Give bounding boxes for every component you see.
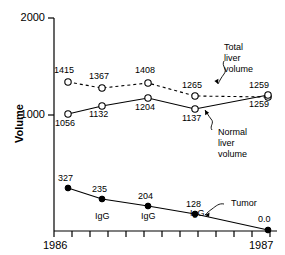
data-label-total-0: 1415 <box>54 66 74 75</box>
treatment-label-igg-1: IgG <box>95 212 110 221</box>
treatment-label-igg-3: IgG <box>190 209 205 218</box>
y-tick-label-1000: 1000 <box>14 109 45 120</box>
leader-normal-liver-volume <box>205 110 212 130</box>
annotation-normal-liver-volume-line3: volume <box>218 150 247 159</box>
annotation-total-liver-volume-line1: Total <box>224 43 243 52</box>
data-label-total-1: 1367 <box>89 72 109 81</box>
x-tick-label-1986: 1986 <box>43 240 67 251</box>
annotation-tumor: Tumor <box>231 199 257 208</box>
annotation-total-liver-volume-line2: liver <box>224 54 241 63</box>
data-label-tumor-0: 327 <box>58 174 73 183</box>
treatment-label-igg-2: IgG <box>141 212 156 221</box>
y-tick-label-2000: 2000 <box>14 12 45 23</box>
data-label-normal-0: 1056 <box>55 119 75 128</box>
data-label-normal-1: 1132 <box>89 110 108 119</box>
leader-tumor <box>205 204 224 217</box>
data-label-total-4: 1259 <box>249 81 269 90</box>
data-label-normal-2: 1204 <box>135 103 155 112</box>
data-label-total-3: 1265 <box>182 81 202 90</box>
data-label-tumor-1: 235 <box>92 185 107 194</box>
series-total-liver-volume <box>65 79 271 100</box>
data-label-tumor-4: 0.0 <box>258 215 271 224</box>
x-tick-marks <box>54 231 270 237</box>
data-label-normal-3: 1137 <box>182 114 201 123</box>
annotation-normal-liver-volume-line1: Normal <box>218 128 247 137</box>
data-label-tumor-2: 204 <box>138 192 153 201</box>
chart-figure: Volume 2000 1000 1986 1987 1415 1367 140… <box>0 0 285 255</box>
data-label-normal-4: 1259 <box>249 100 269 109</box>
annotation-normal-liver-volume-line2: liver <box>218 139 235 148</box>
x-tick-label-1987: 1987 <box>249 240 273 251</box>
data-label-total-2: 1408 <box>135 66 155 75</box>
annotation-total-liver-volume-line3: volume <box>224 65 253 74</box>
